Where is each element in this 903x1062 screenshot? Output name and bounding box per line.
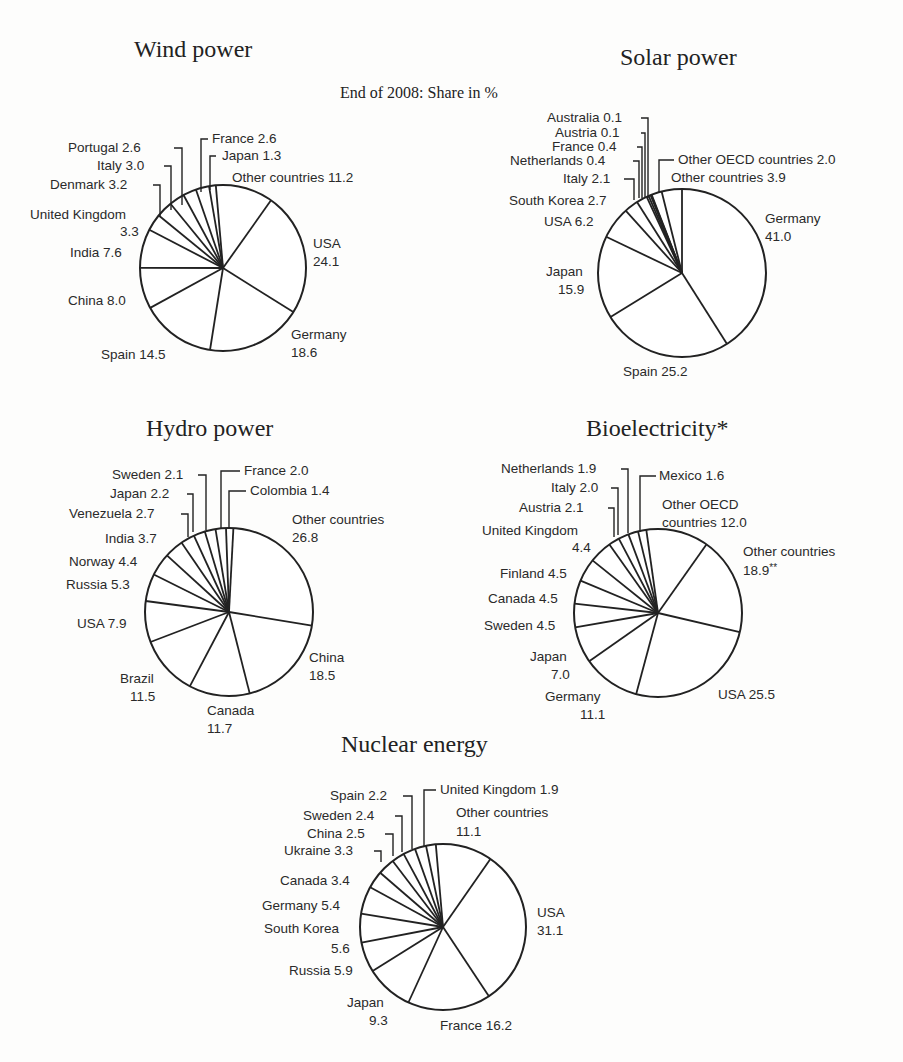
bio-label-mexico: Mexico 1.6: [659, 468, 724, 483]
hydro-label-canada-value: 11.7: [207, 721, 232, 736]
solar-label-other-oecd: Other OECD countries 2.0: [678, 152, 836, 167]
nuclear-label-japan-value: 9.3: [369, 1013, 388, 1028]
bio-label-finland: Finland 4.5: [500, 566, 567, 581]
nuclear-label-south-korea: South Korea: [264, 921, 340, 936]
solar-label-usa: USA 6.2: [544, 214, 594, 229]
bio-label-japan-value: 7.0: [551, 667, 570, 682]
solar-label-other: Other countries 3.9: [671, 170, 786, 185]
bio-label-other-value: 18.9**: [743, 562, 777, 578]
nuclear-label-china: China 2.5: [307, 826, 365, 841]
hydro-label-russia: Russia 5.3: [66, 577, 130, 592]
nuclear-label-usa-value: 31.1: [537, 923, 563, 938]
hydro-label-france: France 2.0: [244, 463, 309, 478]
hydro-label-colombia: Colombia 1.4: [250, 483, 330, 498]
wind-label-italy: Italy 3.0: [97, 158, 144, 173]
wind-label-china: China 8.0: [68, 293, 126, 308]
nuclear-label-usa: USA: [537, 905, 565, 920]
hydro-pie: [145, 528, 313, 696]
solar-label-australia: Australia 0.1: [547, 110, 622, 125]
nuclear-label-france: France 16.2: [440, 1018, 512, 1033]
bio-label-sweden: Sweden 4.5: [484, 618, 555, 633]
solar-label-france: France 0.4: [552, 139, 617, 154]
solar-label-japan-value: 15.9: [558, 282, 584, 297]
wind-label-denmark: Denmark 3.2: [50, 177, 127, 192]
solar-label-south-korea: South Korea 2.7: [509, 193, 607, 208]
hydro-label-venezuela: Venezuela 2.7: [69, 506, 155, 521]
nuclear-label-germany: Germany 5.4: [262, 898, 341, 913]
bio-label-austria: Austria 2.1: [519, 500, 584, 515]
bio-label-uk-value: 4.4: [572, 540, 591, 555]
nuclear-label-other: Other countries: [456, 805, 549, 820]
solar-label-germany-value: 41.0: [765, 229, 791, 244]
hydro-label-other: Other countries: [292, 512, 385, 527]
nuclear-label-sweden: Sweden 2.4: [303, 808, 375, 823]
nuclear-label-ukraine: Ukraine 3.3: [284, 843, 353, 858]
bio-label-other-oecd-value: countries 12.0: [662, 515, 747, 530]
hydro-label-japan: Japan 2.2: [110, 486, 169, 501]
bio-pie: [574, 529, 742, 697]
solar-pie: [598, 189, 766, 357]
bio-label-usa: USA 25.5: [718, 687, 775, 702]
wind-label-india: India 7.6: [70, 245, 122, 260]
solar-label-italy: Italy 2.1: [563, 171, 610, 186]
nuclear-label-canada: Canada 3.4: [280, 873, 350, 888]
bio-label-italy: Italy 2.0: [551, 480, 598, 495]
hydro-label-other-value: 26.8: [292, 530, 318, 545]
wind-label-portugal: Portugal 2.6: [68, 140, 141, 155]
bio-label-netherlands: Netherlands 1.9: [501, 461, 596, 476]
solar-label-germany: Germany: [765, 211, 821, 226]
nuclear-label-spain: Spain 2.2: [330, 788, 387, 803]
nuclear-pie: [360, 844, 526, 1010]
bio-label-other: Other countries: [743, 544, 836, 559]
wind-label-germany: Germany: [291, 327, 347, 342]
wind-label-japan: Japan 1.3: [222, 148, 281, 163]
wind-label-uk: United Kingdom: [30, 207, 126, 222]
pie-charts-canvas: Portugal 2.6 Italy 3.0 Denmark 3.2 Unite…: [0, 0, 903, 1062]
wind-label-other: Other countries 11.2: [232, 170, 353, 185]
wind-label-uk-value: 3.3: [120, 224, 139, 239]
bio-label-canada: Canada 4.5: [488, 591, 558, 606]
hydro-label-brazil-value: 11.5: [130, 689, 155, 704]
hydro-label-china: China: [309, 650, 345, 665]
wind-pie: [140, 185, 306, 351]
solar-label-netherlands: Netherlands 0.4: [510, 153, 606, 168]
hydro-label-norway: Norway 4.4: [69, 554, 138, 569]
wind-label-germany-value: 18.6: [291, 345, 317, 360]
bio-label-germany-value: 11.1: [580, 707, 605, 722]
hydro-label-sweden: Sweden 2.1: [112, 467, 183, 482]
wind-label-usa: USA: [313, 236, 341, 251]
nuclear-label-russia: Russia 5.9: [289, 963, 353, 978]
bio-label-uk: United Kingdom: [482, 523, 578, 538]
solar-label-austria: Austria 0.1: [555, 125, 620, 140]
hydro-label-china-value: 18.5: [309, 668, 335, 683]
hydro-label-india: India 3.7: [105, 531, 157, 546]
nuclear-label-other-value: 11.1: [456, 824, 481, 839]
wind-label-france: France 2.6: [212, 131, 277, 146]
bio-label-germany: Germany: [545, 689, 601, 704]
hydro-label-brazil: Brazil: [120, 671, 154, 686]
nuclear-label-japan: Japan: [347, 995, 384, 1010]
wind-label-usa-value: 24.1: [313, 254, 339, 269]
nuclear-label-uk: United Kingdom 1.9: [440, 782, 559, 797]
nuclear-label-south-korea-value: 5.6: [331, 941, 350, 956]
solar-label-spain: Spain 25.2: [623, 364, 688, 379]
wind-label-spain: Spain 14.5: [101, 347, 166, 362]
bio-label-japan: Japan: [530, 649, 567, 664]
hydro-label-usa: USA 7.9: [77, 616, 127, 631]
solar-label-japan: Japan: [546, 264, 583, 279]
hydro-label-canada: Canada: [207, 703, 255, 718]
bio-label-other-oecd: Other OECD: [662, 497, 739, 512]
